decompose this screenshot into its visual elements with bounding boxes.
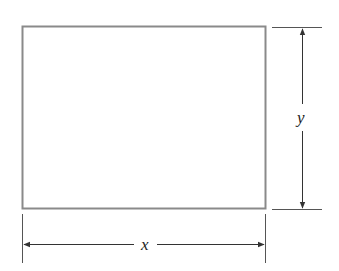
- width-dimension: x: [23, 214, 266, 263]
- height-dimension: y: [272, 28, 322, 210]
- width-label-x: x: [140, 235, 149, 254]
- height-label-y: y: [295, 108, 305, 127]
- diagram-canvas: y x: [0, 0, 339, 271]
- rectangle: [23, 27, 266, 209]
